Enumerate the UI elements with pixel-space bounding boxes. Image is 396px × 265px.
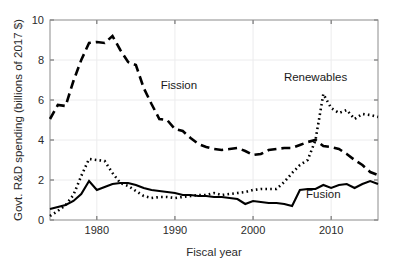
y-tick-label: 4 xyxy=(38,134,44,146)
rd-spending-line-chart: FissionRenewablesFusion 0246810 19801990… xyxy=(0,0,396,265)
chart-figure: FissionRenewablesFusion 0246810 19801990… xyxy=(0,0,396,265)
y-tick-label: 0 xyxy=(38,214,44,226)
series-label-renewables: Renewables xyxy=(284,71,348,83)
y-axis-title: Govt. R&D spending (billions of 2017 $) xyxy=(12,19,24,221)
x-tick-label: 2000 xyxy=(241,224,265,236)
x-tick-label: 2010 xyxy=(319,224,343,236)
y-tick-label: 10 xyxy=(32,14,44,26)
series-label-fission: Fission xyxy=(161,79,197,91)
series-label-fusion: Fusion xyxy=(306,188,341,200)
x-tick-label: 1980 xyxy=(85,224,109,236)
x-axis-title: Fiscal year xyxy=(186,246,242,258)
x-tick-label: 1990 xyxy=(163,224,187,236)
y-tick-label: 6 xyxy=(38,94,44,106)
y-tick-label: 2 xyxy=(38,174,44,186)
x-tick-labels: 1980199020002010 xyxy=(85,224,344,236)
y-tick-labels: 0246810 xyxy=(32,14,44,226)
y-tick-label: 8 xyxy=(38,54,44,66)
